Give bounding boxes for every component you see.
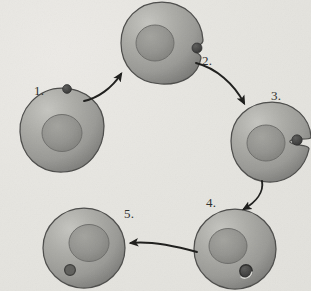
diagram-canvas (0, 0, 311, 291)
step-label-3: 3. (271, 89, 281, 102)
nucleus-4 (209, 229, 247, 264)
nucleus-3 (247, 125, 285, 161)
arrow-2-to-3 (196, 63, 244, 103)
cell-stage-2 (121, 2, 203, 84)
endocytosis-diagram: 1. 2. 3. 4. 5. (0, 0, 311, 291)
step-label-5: 5. (124, 207, 134, 220)
step-label-4: 4. (206, 196, 216, 209)
particle-free-1 (63, 85, 72, 94)
nucleus-1 (42, 115, 82, 152)
cell-stage-1 (20, 88, 104, 172)
particle-at-membrane-2 (192, 43, 202, 53)
arrow-3-to-4 (244, 181, 262, 209)
cell-stage-4 (194, 209, 276, 289)
nucleus-2 (136, 25, 174, 61)
arrow-4-to-5 (131, 243, 197, 252)
nucleus-5 (69, 225, 109, 262)
step-label-2: 2. (202, 54, 212, 67)
vesicle-5 (65, 265, 76, 276)
step-label-1: 1. (34, 84, 44, 97)
cell-stage-5 (43, 208, 125, 288)
particle-engulfing-3 (292, 135, 302, 145)
